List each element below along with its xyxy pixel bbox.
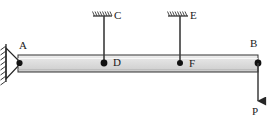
support-wall-A [1, 44, 7, 85]
diagram-canvas [0, 0, 276, 121]
label-point-a: A [19, 40, 27, 51]
ceiling-hatch-E [168, 12, 189, 17]
label-load-p: P [252, 106, 258, 117]
beam-diagram: A B C D E F P [0, 0, 276, 121]
ceiling-hatch-C [93, 12, 113, 17]
node-dot-F [177, 60, 183, 66]
label-point-c: C [114, 10, 121, 21]
label-point-b: B [250, 38, 257, 49]
label-point-e: E [190, 10, 197, 21]
label-point-d: D [113, 57, 121, 68]
label-point-f: F [189, 58, 195, 69]
pin-node-marker-A [16, 60, 22, 66]
node-dot-D [101, 60, 108, 67]
beam-member [18, 55, 258, 72]
